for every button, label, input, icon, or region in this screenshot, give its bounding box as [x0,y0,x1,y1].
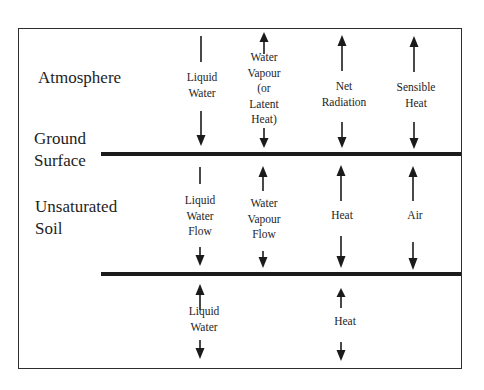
arrow-up-icon [407,166,419,201]
flux-label-atm-liquid-water: Liquid Water [187,70,218,101]
zone-label-ground: Ground [34,127,86,150]
arrow-down-icon [257,251,269,268]
arrow-down-icon [336,122,348,148]
zone-label-atmosphere: Atmosphere [38,66,121,89]
arrow-up-icon [336,35,348,71]
shaft-line [195,36,207,62]
arrow-down-icon [335,342,347,361]
flux-label-atm-water-vapour: Water Vapour (or Latent Heat) [247,50,280,128]
soil-lower-boundary-line [101,272,461,276]
zone-label-soil: Soil [35,217,62,240]
arrow-up-icon [335,288,347,308]
flux-label-atm-net-radiation: Net Radiation [322,79,367,110]
flux-label-soil-air: Air [407,208,422,224]
zone-label-unsaturated: Unsaturated [35,195,117,218]
flux-label-soil-heat: Heat [331,208,353,224]
flux-label-atm-sensible-heat: Sensible Heat [397,80,436,111]
arrow-down-icon [335,236,347,268]
arrow-up-icon [408,36,420,72]
arrow-up-icon [257,166,269,191]
shaft-line [194,167,206,184]
arrow-down-icon [194,247,206,266]
flux-label-lower-liquid-water: Liquid Water [189,304,220,335]
arrow-down-icon [194,340,206,359]
arrow-down-icon [258,128,270,148]
arrow-down-icon [408,122,420,149]
flux-label-soil-liquid-water-flow: Liquid Water Flow [185,193,216,240]
flux-label-lower-heat: Heat [334,314,356,330]
arrow-down-icon [407,242,419,270]
arrow-up-icon [335,165,347,201]
zone-label-surface: Surface [34,149,86,172]
arrow-down-icon [195,111,207,146]
flux-label-soil-water-vapour-flow: Water Vapour Flow [247,196,280,243]
ground-surface-line [101,152,461,156]
